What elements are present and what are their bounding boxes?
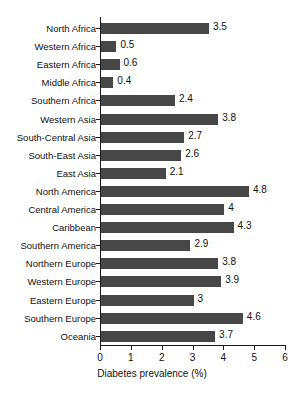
- category-label: Central America: [0, 204, 96, 215]
- bar-value-label: 3.8: [222, 256, 236, 267]
- bar-value-label: 2.6: [185, 148, 199, 159]
- category-label: Eastern Europe: [0, 295, 96, 306]
- bar-value-label: 0.6: [124, 57, 138, 68]
- y-axis-tick: [96, 173, 100, 174]
- y-axis-tick: [96, 82, 100, 83]
- bar: [101, 186, 249, 197]
- bar: [101, 295, 194, 306]
- x-axis-tick-label: 1: [128, 352, 134, 364]
- bar: [101, 150, 181, 161]
- bar-value-label: 2.7: [188, 130, 202, 141]
- y-axis-tick: [96, 137, 100, 138]
- x-axis-tick: [285, 346, 286, 350]
- category-label: East Asia: [0, 168, 96, 179]
- y-axis-tick: [96, 263, 100, 264]
- category-label: Southern America: [0, 240, 96, 251]
- category-label: South-East Asia: [0, 150, 96, 161]
- y-axis-tick: [96, 46, 100, 47]
- category-label: Middle Africa: [0, 77, 96, 88]
- x-axis-tick: [193, 346, 194, 350]
- category-label: Eastern Africa: [0, 59, 96, 70]
- category-label: North America: [0, 186, 96, 197]
- bar: [101, 77, 113, 88]
- category-label: Caribbean: [0, 222, 96, 233]
- bar-value-label: 0.4: [117, 75, 131, 86]
- bar-value-label: 3.8: [222, 112, 236, 123]
- y-axis-tick: [96, 300, 100, 301]
- bar: [101, 114, 218, 125]
- category-label: South-Central Asia: [0, 132, 96, 143]
- x-axis-title: Diabetes prevalence (%): [0, 368, 304, 379]
- bar: [101, 168, 166, 179]
- category-label: Western Europe: [0, 276, 96, 287]
- category-label: Northern Europe: [0, 258, 96, 269]
- category-label: North Africa: [0, 23, 96, 34]
- top-caption-fragment: [0, 0, 304, 5]
- y-axis-tick: [96, 245, 100, 246]
- bar-value-label: 0.5: [120, 39, 134, 50]
- y-axis-tick: [96, 227, 100, 228]
- x-axis-tick: [131, 346, 132, 350]
- y-axis-tick: [96, 100, 100, 101]
- y-axis-tick: [96, 281, 100, 282]
- bar: [101, 132, 184, 143]
- bar-value-label: 3.7: [219, 329, 233, 340]
- bar-value-label: 3.5: [213, 21, 227, 32]
- x-axis-tick-label: 0: [97, 352, 103, 364]
- bar: [101, 59, 120, 70]
- bar: [101, 258, 218, 269]
- bar-value-label: 2.1: [170, 166, 184, 177]
- bar: [101, 23, 209, 34]
- bar: [101, 276, 221, 287]
- bar: [101, 331, 215, 342]
- x-axis-tick-label: 2: [159, 352, 165, 364]
- y-axis-tick: [96, 191, 100, 192]
- bar-value-label: 4.3: [238, 220, 252, 231]
- bar-value-label: 4.6: [247, 311, 261, 322]
- bar: [101, 313, 243, 324]
- category-label: Southern Europe: [0, 313, 96, 324]
- x-axis-tick: [100, 346, 101, 350]
- y-axis-tick: [96, 318, 100, 319]
- bar-value-label: 2.4: [179, 93, 193, 104]
- y-axis-tick: [96, 209, 100, 210]
- bar-value-label: 3: [198, 293, 204, 304]
- bar: [101, 204, 224, 215]
- y-axis-tick: [96, 64, 100, 65]
- bar: [101, 240, 190, 251]
- plot-area: 3.50.50.60.42.43.82.72.62.14.844.32.93.8…: [100, 17, 285, 345]
- category-label: Southern Africa: [0, 95, 96, 106]
- bar-chart-figure: 3.50.50.60.42.43.82.72.62.14.844.32.93.8…: [0, 0, 304, 394]
- x-axis-tick-label: 5: [251, 352, 257, 364]
- bar: [101, 41, 116, 52]
- category-label: Western Asia: [0, 114, 96, 125]
- x-axis-tick: [162, 346, 163, 350]
- bar-value-label: 3.9: [225, 274, 239, 285]
- y-axis-tick: [96, 119, 100, 120]
- bar-value-label: 4: [228, 202, 234, 213]
- x-axis-tick-label: 6: [282, 352, 288, 364]
- bar-value-label: 4.8: [253, 184, 267, 195]
- x-axis-tick: [254, 346, 255, 350]
- y-axis-tick: [96, 336, 100, 337]
- bar-value-label: 2.9: [194, 238, 208, 249]
- x-axis-tick-label: 3: [190, 352, 196, 364]
- category-label: Oceania: [0, 331, 96, 342]
- y-axis-tick: [96, 155, 100, 156]
- category-label: Western Africa: [0, 41, 96, 52]
- bar: [101, 222, 234, 233]
- x-axis-tick: [223, 346, 224, 350]
- bar: [101, 95, 175, 106]
- x-axis-tick-label: 4: [221, 352, 227, 364]
- y-axis-tick: [96, 28, 100, 29]
